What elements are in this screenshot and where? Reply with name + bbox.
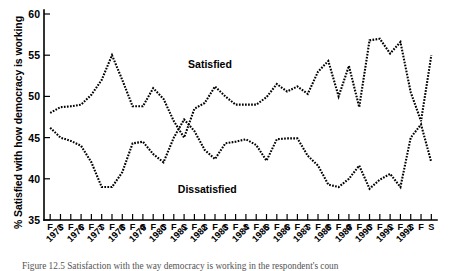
chart-tick-marks bbox=[44, 14, 431, 220]
series-annotation-satisfied: Satisfied bbox=[188, 58, 232, 70]
figure-container: % Satisfied with how democracy is workin… bbox=[0, 0, 452, 271]
figure-caption: Figure 12.5 Satisfaction with the way de… bbox=[22, 261, 446, 271]
chart-axes bbox=[44, 10, 437, 220]
series-line-dissatisfied bbox=[50, 119, 431, 188]
x-season-label: S bbox=[425, 222, 437, 232]
y-tick-label: 60 bbox=[18, 8, 40, 20]
y-tick-label: 50 bbox=[18, 90, 40, 102]
y-axis-label: % Satisfied with how democracy is workin… bbox=[12, 16, 24, 229]
series-line-satisfied bbox=[50, 39, 431, 138]
y-tick-label: 35 bbox=[18, 214, 40, 226]
y-tick-label: 45 bbox=[18, 132, 40, 144]
y-tick-label: 55 bbox=[18, 49, 40, 61]
series-annotation-dissatisfied: Dissatisfied bbox=[178, 183, 237, 195]
y-tick-label: 40 bbox=[18, 173, 40, 185]
chart-series-lines bbox=[50, 39, 431, 189]
